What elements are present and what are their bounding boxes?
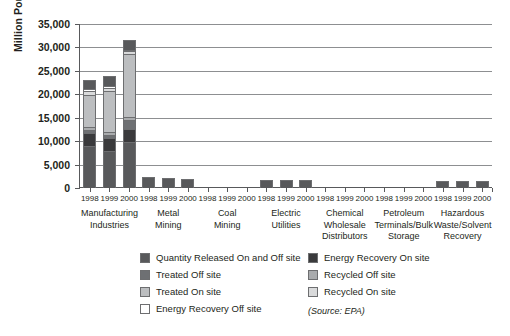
legend-item[interactable]: Treated On site [140, 286, 221, 297]
bar-segment [181, 179, 194, 188]
legend-item[interactable]: Recycled On site [308, 286, 396, 297]
bar-stack[interactable] [103, 76, 116, 188]
bar-segment [83, 146, 96, 188]
bar-stack[interactable] [260, 180, 273, 188]
legend-swatch [308, 287, 318, 297]
x-axis-ticks [80, 188, 492, 193]
legend-label: Treated Off site [156, 269, 221, 280]
bar-stack[interactable] [162, 178, 175, 188]
bar-segment [83, 133, 96, 146]
chart-legend: Quantity Released On and Off siteTreated… [140, 252, 480, 328]
group-label-line: Hazardous [417, 208, 509, 220]
bar-segment [123, 54, 136, 117]
x-axis-tick [90, 188, 91, 192]
y-axis-tick [75, 118, 80, 119]
bar-segment [123, 120, 136, 129]
x-axis-tick [286, 188, 287, 192]
bar-stack[interactable] [476, 181, 489, 188]
x-axis-tick [443, 188, 444, 192]
bar-segment [83, 80, 96, 90]
legend-label: Energy Recovery Off site [156, 303, 261, 314]
x-axis-tick [463, 188, 464, 192]
group-label-line: Recovery [417, 231, 509, 243]
bar-stack[interactable] [280, 180, 293, 188]
y-axis-tick [75, 24, 80, 25]
legend-item[interactable]: Energy Recovery Off site [140, 303, 261, 314]
x-axis-tick [247, 188, 248, 192]
legend-label: Energy Recovery On site [324, 252, 430, 263]
y-axis-tick-label: 25,000 [8, 65, 70, 77]
gridline [80, 94, 492, 95]
x-axis-tick [306, 188, 307, 192]
y-axis-tick [75, 94, 80, 95]
bar-stack[interactable] [83, 80, 96, 188]
x-axis-group-label: HazardousWaste/SolventRecovery [417, 208, 509, 243]
bar-stack[interactable] [456, 181, 469, 188]
bar-segment [123, 129, 136, 142]
x-axis-tick [168, 188, 169, 192]
x-axis-tick [227, 188, 228, 192]
x-axis-tick [325, 188, 326, 192]
legend-swatch [308, 270, 318, 280]
gridline [80, 47, 492, 48]
bar-segment [280, 180, 293, 188]
y-axis-tick-label: 0 [8, 182, 70, 194]
x-axis-tick [149, 188, 150, 192]
bar-segment [260, 180, 273, 188]
bar-segment [162, 178, 175, 188]
bar-stack[interactable] [142, 177, 155, 188]
y-axis-tick-label: 35,000 [8, 18, 70, 30]
gridline [80, 24, 492, 25]
x-axis-tick [188, 188, 189, 192]
legend-swatch [140, 287, 150, 297]
gridline [80, 141, 492, 142]
bar-segment [103, 151, 116, 188]
bar-segment [142, 177, 155, 188]
y-axis-line [79, 24, 80, 188]
x-axis-tick [404, 188, 405, 192]
bar-segment [83, 95, 96, 127]
x-axis-tick [384, 188, 385, 192]
bar-segment [123, 40, 136, 50]
legend-label: Recycled On site [324, 286, 396, 297]
y-axis-tick-label: 20,000 [8, 88, 70, 100]
y-axis-tick [75, 47, 80, 48]
group-label-line: Waste/Solvent [417, 220, 509, 232]
x-axis-year-labels: 1998199920001998199920001998199920001998… [80, 194, 492, 206]
gridline [80, 71, 492, 72]
legend-item[interactable]: Energy Recovery On site [308, 252, 430, 263]
y-axis-tick [75, 141, 80, 142]
x-axis-tick [129, 188, 130, 192]
x-axis-tick [109, 188, 110, 192]
bar-stack[interactable] [123, 40, 136, 188]
legend-item[interactable]: Treated Off site [140, 269, 221, 280]
legend-swatch [140, 270, 150, 280]
plot-area [80, 24, 492, 188]
x-axis-year-label: 2000 [469, 194, 495, 203]
legend-swatch [140, 304, 150, 314]
legend-item[interactable]: Recycled Off site [308, 269, 396, 280]
legend-item[interactable]: Quantity Released On and Off site [140, 252, 301, 263]
legend-label: Recycled Off site [324, 269, 396, 280]
bar-stack[interactable] [299, 180, 312, 188]
x-axis-tick [423, 188, 424, 192]
legend-label: Treated On site [156, 286, 221, 297]
bar-segment [456, 181, 469, 188]
gridline [80, 118, 492, 119]
bar-segment [103, 76, 116, 87]
bar-stack[interactable] [181, 179, 194, 188]
x-axis-tick [364, 188, 365, 192]
y-axis-tick-label: 10,000 [8, 135, 70, 147]
bar-segment [103, 138, 116, 151]
legend-swatch [140, 253, 150, 263]
bar-segment [476, 181, 489, 188]
x-axis-tick [266, 188, 267, 192]
y-axis-tick-label: 30,000 [8, 41, 70, 53]
x-axis-tick [492, 188, 493, 192]
y-axis-tick-label: 5,000 [8, 159, 70, 171]
bar-segment [103, 91, 116, 132]
legend-label: Quantity Released On and Off site [156, 252, 301, 263]
source-note: (Source: EPA) [308, 306, 365, 316]
y-axis-tick [75, 165, 80, 166]
chart-root: Million Pounds 05,00010,00015,00020,0002… [0, 0, 510, 336]
